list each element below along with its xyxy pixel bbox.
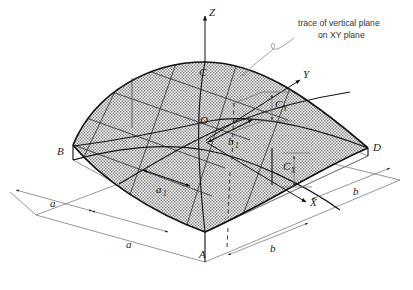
surface-fill [73, 62, 368, 232]
cx-label-sub: X [290, 166, 296, 175]
point-label-A: A [198, 248, 206, 260]
axis-y-label: Y [303, 68, 311, 80]
dimension-b-lower: b [228, 223, 308, 255]
point-label-O: O [200, 114, 208, 126]
trace-lower-dash [227, 228, 228, 248]
annotation-line-1: trace of vertical plane [298, 18, 380, 28]
trace-annotation: trace of vertical plane on XY plane [242, 18, 380, 76]
dim-a-upper-label: a [50, 197, 56, 209]
axis-z: Z [205, 6, 216, 62]
axis-z-label: Z [209, 6, 216, 18]
cx-label-base: C [283, 160, 291, 172]
saddle-surface [60, 58, 368, 232]
figure-canvas: Z Y X trace of vertical plane on XY plan… [0, 0, 413, 290]
dim-a1-label: a [156, 183, 162, 195]
point-label-C: C [199, 66, 207, 78]
axis-x-label: X [309, 196, 318, 208]
dim-b1-sub: 1 [235, 141, 239, 150]
point-label-B: B [57, 145, 64, 157]
point-label-D: D [372, 141, 381, 153]
dim-b-right-arrow [312, 168, 390, 199]
dim-b-right-label: b [353, 185, 359, 197]
dim-b-lower-label: b [270, 242, 276, 254]
annotation-line-2: on XY plane [318, 30, 365, 40]
dimension-b-right: b [312, 168, 390, 199]
saddle-surface-diagram: Z Y X trace of vertical plane on XY plan… [0, 0, 413, 290]
dim-a1-sub: 1 [163, 189, 167, 198]
dim-b1-label: b [228, 135, 234, 147]
dim-a-ext-left [10, 192, 36, 215]
dim-a-lower-arrow [92, 211, 168, 232]
dim-b-lower-arrow [228, 223, 308, 255]
cy-label-base: C [275, 98, 283, 110]
dim-a-lower-label: a [126, 238, 132, 250]
